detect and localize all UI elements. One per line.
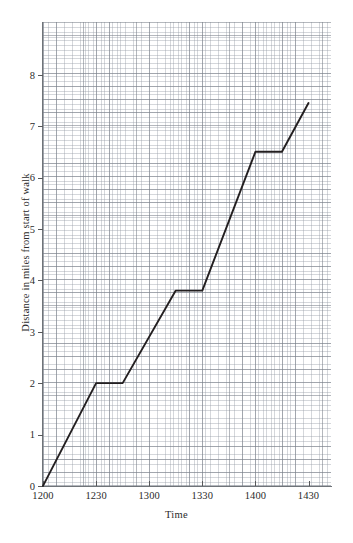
y-tick-label-1: 1 — [20, 429, 35, 440]
x-axis-tick — [149, 481, 150, 486]
x-axis-tick — [255, 481, 256, 486]
y-axis-tick — [38, 332, 43, 333]
y-axis-tick — [38, 383, 43, 384]
x-tick-label-1400: 1400 — [233, 489, 277, 502]
plot-area-gridlines — [43, 22, 331, 486]
y-tick-label-8: 8 — [20, 70, 35, 81]
y-axis-tick — [38, 280, 43, 281]
x-tick-label-1430: 1430 — [287, 489, 331, 502]
y-tick-label-2: 2 — [20, 378, 35, 389]
x-axis-line — [42, 486, 332, 487]
x-tick-label-1330: 1330 — [180, 489, 224, 502]
x-axis-tick — [96, 481, 97, 486]
y-axis-tick — [38, 229, 43, 230]
y-axis-line — [42, 22, 43, 487]
x-axis-tick — [309, 481, 310, 486]
y-axis-tick — [38, 486, 43, 487]
x-axis-tick — [202, 481, 203, 486]
y-axis-tick — [38, 126, 43, 127]
y-axis-tick — [38, 178, 43, 179]
x-axis-tick — [43, 481, 44, 486]
x-axis-title: Time — [0, 509, 353, 520]
x-tick-label-1300: 1300 — [127, 489, 171, 502]
y-axis-tick — [38, 75, 43, 76]
x-tick-label-1230: 1230 — [74, 489, 118, 502]
y-axis-title: Distance in miles from start of walk — [20, 143, 31, 363]
y-tick-label-7: 7 — [20, 121, 35, 132]
y-axis-tick — [38, 435, 43, 436]
distance-time-graph: 1200 1230 1300 1330 1400 1430 8 7 6 5 4 … — [0, 0, 353, 543]
y-tick-label-0: 0 — [20, 481, 35, 492]
